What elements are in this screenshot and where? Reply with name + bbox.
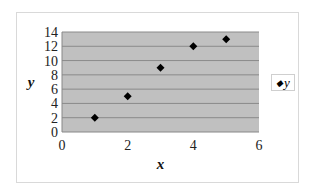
y-axis-label: y bbox=[26, 74, 35, 90]
legend-label: y bbox=[284, 75, 290, 91]
legend: ◆ y bbox=[271, 74, 295, 91]
y-tick-label: 6 bbox=[51, 82, 58, 97]
y-tick-label: 10 bbox=[44, 54, 58, 69]
legend-marker-icon: ◆ bbox=[276, 78, 283, 88]
y-tick-label: 0 bbox=[51, 125, 58, 140]
scatter-chart: 024681012140246xy bbox=[0, 0, 313, 190]
y-tick-label: 2 bbox=[51, 111, 58, 126]
x-tick-label: 6 bbox=[256, 138, 263, 153]
x-tick-label: 0 bbox=[59, 138, 66, 153]
x-axis-label: x bbox=[156, 156, 165, 172]
y-tick-label: 4 bbox=[51, 96, 58, 111]
y-tick-label: 12 bbox=[44, 39, 58, 54]
y-tick-label: 14 bbox=[44, 25, 58, 40]
y-tick-label: 8 bbox=[51, 68, 58, 83]
x-tick-label: 4 bbox=[190, 138, 197, 153]
x-tick-label: 2 bbox=[124, 138, 131, 153]
